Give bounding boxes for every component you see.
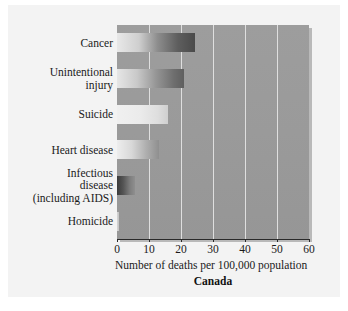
bar: [117, 69, 184, 88]
category-label: Suicide: [5, 108, 113, 121]
gridline-20: [181, 25, 182, 239]
x-tick-label: 60: [297, 243, 321, 255]
x-tick-label: 50: [265, 243, 289, 255]
category-label: Unintentional injury: [5, 66, 113, 91]
x-tick-label: 10: [137, 243, 161, 255]
x-tick-label: 30: [201, 243, 225, 255]
tick-mark-50: [277, 239, 278, 242]
bar-fill: [117, 140, 159, 159]
category-axis-labels: CancerUnintentional injurySuicideHeart d…: [5, 25, 113, 239]
category-label: Infectious disease (including AIDS): [5, 167, 113, 205]
figure-container: CancerUnintentional injurySuicideHeart d…: [0, 0, 348, 311]
x-tick-label: 40: [233, 243, 257, 255]
bar-fill: [117, 212, 119, 231]
category-label: Homicide: [5, 215, 113, 228]
gridline-40: [245, 25, 246, 239]
gridline-30: [213, 25, 214, 239]
tick-mark-60: [309, 239, 310, 242]
tick-mark-30: [213, 239, 214, 242]
bar-fill: [117, 69, 184, 88]
bar-fill: [117, 176, 135, 195]
bar: [117, 33, 195, 52]
x-axis-title: Number of deaths per 100,000 population: [115, 259, 307, 271]
bar-fill: [117, 105, 168, 124]
gridline-50: [277, 25, 278, 239]
bar: [117, 212, 119, 231]
bar-fill: [117, 33, 195, 52]
bar: [117, 176, 135, 195]
x-tick-label: 0: [105, 243, 129, 255]
tick-mark-0: [117, 239, 118, 242]
tick-mark-10: [149, 239, 150, 242]
bar: [117, 140, 159, 159]
chart-subtitle: Canada: [117, 275, 309, 287]
tick-mark-40: [245, 239, 246, 242]
x-tick-label: 20: [169, 243, 193, 255]
gridline-10: [149, 25, 150, 239]
category-label: Cancer: [5, 37, 113, 50]
tick-mark-20: [181, 239, 182, 242]
category-label: Heart disease: [5, 144, 113, 157]
bar: [117, 105, 168, 124]
plot-area: [117, 25, 309, 239]
